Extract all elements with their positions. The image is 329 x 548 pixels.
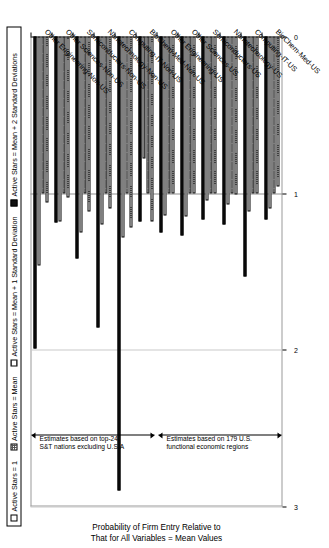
bar [33, 36, 36, 348]
legend-swatch-solid-icon [10, 199, 17, 206]
legend-label: Active Stars = 1 [9, 460, 18, 511]
bar [251, 36, 254, 193]
bar [83, 36, 86, 193]
value-tick-label-1: 1 [294, 190, 298, 197]
legend-item-active-stars-mean-plus-2sd: Active Stars = Mean + 2 Standard Deviati… [9, 53, 18, 206]
legend-item-active-stars-1: Active Stars = 1 [9, 460, 18, 521]
bar [142, 36, 145, 158]
bar [87, 36, 90, 211]
bar [243, 36, 246, 276]
bar [54, 36, 57, 222]
bar [150, 36, 153, 221]
legend-label: Active Stars = Mean + 1 Standard Deviati… [9, 216, 18, 356]
bar [272, 36, 275, 193]
bar [41, 36, 44, 193]
legend-label: Active Stars = Mean [9, 376, 18, 441]
value-axis-title-line1: Probability of Firm Entry Relative to [30, 522, 282, 533]
bar [62, 36, 65, 193]
bar [58, 36, 61, 221]
bar [209, 36, 212, 193]
value-axis-title-line2: That for All Variables = Mean Values [30, 533, 282, 544]
value-tick-label-2: 2 [294, 347, 298, 354]
non-us-note-text: Estimates based on top-24S&T nations exc… [39, 435, 124, 451]
category-tick [30, 32, 31, 36]
value-tick-label-3: 3 [294, 503, 298, 510]
bar [146, 36, 149, 193]
legend-swatch-checkered-icon [10, 443, 17, 450]
rotated-figure: Active Stars = 1 Active Stars = Mean Act… [0, 0, 329, 548]
bar [125, 36, 128, 193]
bar [230, 36, 233, 193]
value-tick-3 [282, 506, 286, 507]
bar [37, 36, 40, 265]
legend-swatch-horizontal-lines-icon [10, 359, 17, 366]
non-us-note-arrow-end-icon [150, 432, 154, 438]
value-tick-2 [282, 349, 286, 350]
legend-label: Active Stars = Mean + 2 Standard Deviati… [9, 53, 18, 196]
legend-swatch-vertical-lines-icon [10, 514, 17, 521]
value-axis-title: Probability of Firm Entry Relative to Th… [30, 522, 282, 540]
non-us-note-arrow-start-icon [31, 432, 35, 438]
bar [167, 36, 170, 193]
chart-canvas: Active Stars = 1 Active Stars = Mean Act… [0, 0, 329, 548]
us-regions-note-arrow-start-icon [158, 432, 162, 438]
plot-area: 0123 BioChem-Med-USComputing-IT-USNanote… [30, 36, 282, 506]
us-regions-note-text: Estimates based on 179 U.S.functional ec… [166, 435, 251, 451]
value-tick-1 [282, 193, 286, 194]
legend-item-active-stars-mean-plus-1sd: Active Stars = Mean + 1 Standard Deviati… [9, 216, 18, 366]
value-tick-label-0: 0 [294, 33, 298, 40]
legend-item-active-stars-mean: Active Stars = Mean [9, 376, 18, 451]
bar [188, 36, 191, 193]
bar [104, 36, 107, 193]
bar [45, 36, 48, 202]
legend: Active Stars = 1 Active Stars = Mean Act… [6, 26, 21, 526]
bar [66, 36, 69, 197]
bar [108, 36, 111, 208]
bar [117, 36, 120, 490]
us-regions-note-arrow-end-icon [277, 432, 281, 438]
